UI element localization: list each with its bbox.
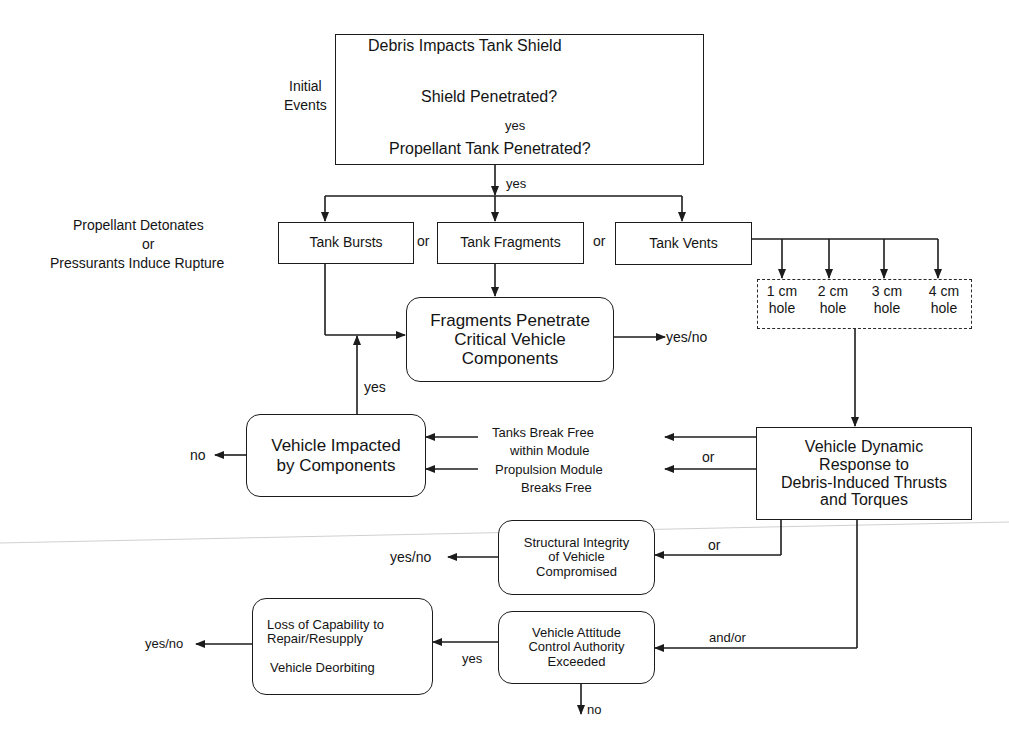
branch-yes-label: yes xyxy=(506,176,526,191)
hole-3cm: 3 cm hole xyxy=(862,283,912,317)
structural-integrity-box: Structural Integrity of Vehicle Compromi… xyxy=(498,520,655,595)
hole-1cm: 1 cm hole xyxy=(757,283,807,317)
structural-outcome-label: yes/no xyxy=(390,549,431,565)
tanks-break-free-label-2: within Module xyxy=(510,443,590,458)
initial-step-debris-impacts: Debris Impacts Tank Shield xyxy=(368,37,562,55)
vehicle-dynamic-response-box: Vehicle Dynamic Response to Debris-Induc… xyxy=(756,427,972,520)
detonate-label-2: or xyxy=(142,236,154,252)
tank-vents-label: Tank Vents xyxy=(649,236,718,252)
tank-fragments-box: Tank Fragments xyxy=(437,222,584,264)
propulsion-break-free-label-2: Breaks Free xyxy=(521,480,592,495)
detonate-label-1: Propellant Detonates xyxy=(73,217,204,233)
tanks-break-free-label-1: Tanks Break Free xyxy=(492,425,594,440)
or-label-1: or xyxy=(417,233,429,249)
fragments-penetrate-box: Fragments Penetrate Critical Vehicle Com… xyxy=(406,297,614,382)
detonate-label-3: Pressurants Induce Rupture xyxy=(50,255,224,271)
initial-events-label-1: Initial xyxy=(289,78,322,94)
loss-outcome-label: yes/no xyxy=(145,636,183,651)
impacted-no-label: no xyxy=(190,447,206,463)
or-label-2: or xyxy=(593,233,605,249)
attitude-yes-label: yes xyxy=(462,651,482,666)
initial-step-tank-penetrated: Propellant Tank Penetrated? xyxy=(389,140,591,158)
initial-step-shield-penetrated: Shield Penetrated? xyxy=(421,88,557,106)
attitude-control-box: Vehicle Attitude Control Authority Excee… xyxy=(498,611,655,684)
vehicle-impacted-box: Vehicle Impacted by Components xyxy=(246,414,426,497)
loss-of-capability-box: Loss of Capability to Repair/Resupply Ve… xyxy=(252,598,433,695)
structural-or-label: or xyxy=(708,537,720,553)
attitude-no-label: no xyxy=(587,702,601,717)
tank-bursts-box: Tank Bursts xyxy=(278,222,414,264)
initial-events-label-2: Events xyxy=(284,97,327,113)
attitude-andor-label: and/or xyxy=(709,630,746,645)
tank-fragments-label: Tank Fragments xyxy=(460,235,560,251)
hole-2cm: 2 cm hole xyxy=(808,283,858,317)
tank-bursts-label: Tank Bursts xyxy=(309,235,382,251)
hole-4cm: 4 cm hole xyxy=(919,283,969,317)
impacted-yes-label: yes xyxy=(364,379,386,395)
break-free-or-label: or xyxy=(702,449,714,465)
initial-yes-label: yes xyxy=(505,118,525,133)
fragments-outcome-label: yes/no xyxy=(666,329,707,345)
propulsion-break-free-label-1: Propulsion Module xyxy=(495,462,603,477)
tank-vents-box: Tank Vents xyxy=(615,222,752,265)
